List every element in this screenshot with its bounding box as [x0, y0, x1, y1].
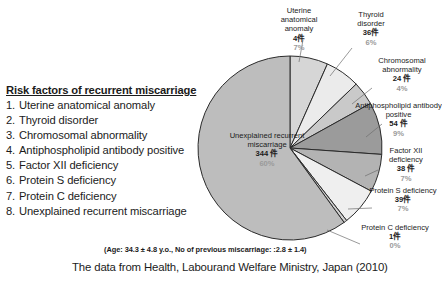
chart-figure: Risk factors of recurrent miscarriage 1.…	[0, 0, 442, 290]
slice-label-name: Protein S deficiency	[368, 186, 438, 195]
slice-label-percent: 7%	[372, 174, 440, 183]
slice-label-percent: 7%	[368, 204, 438, 213]
caption-source: The data from Health, Labourand Welfare …	[72, 261, 388, 273]
slice-label-count: 38 件	[372, 164, 440, 173]
caption-age: (Age: 34.3 ± 4.8 y.o., No of previous mi…	[104, 245, 306, 254]
slice-label-name: Uterine anatomical anomaly	[271, 6, 327, 34]
slice-label-percent: 0%	[361, 241, 429, 250]
slice-label-count: 344 件	[224, 149, 310, 158]
slice-label-antiphospholipid: Antiphospholipid antibody positive 54 件 …	[355, 101, 442, 138]
slice-label-percent: 9%	[355, 129, 442, 138]
slice-label-count: 24 件	[364, 74, 440, 83]
slice-label-count: 4件	[271, 34, 327, 43]
slice-label-factorxii: Factor XII deficiency 38 件 7%	[372, 146, 440, 183]
slice-label-unexplained: Unexplained recurrent miscarriage 344 件 …	[224, 131, 310, 168]
slice-label-name: Protein C deficiency	[361, 223, 429, 232]
slice-label-percent: 4%	[364, 84, 440, 93]
slice-label-count: 1件	[361, 232, 429, 241]
slice-label-percent: 6%	[347, 38, 395, 47]
slice-label-name: Factor XII deficiency	[372, 146, 440, 164]
slice-label-percent: 60%	[224, 159, 310, 168]
slice-label-name: Thyroid disorder	[347, 10, 395, 28]
slice-label-chromosomal: Chromosomal abnormality 24 件 4%	[364, 56, 440, 93]
slice-label-proteins: Protein S deficiency 39件 7%	[368, 186, 438, 214]
slice-label-proteinc: Protein C deficiency 1件 0%	[361, 223, 429, 251]
slice-label-name: Unexplained recurrent miscarriage	[224, 131, 310, 149]
slice-label-name: Chromosomal abnormality	[364, 56, 440, 74]
slice-label-percent: 7%	[271, 43, 327, 52]
slice-label-thyroid: Thyroid disorder 36件 6%	[347, 10, 395, 47]
slice-label-count: 39件	[368, 195, 438, 204]
slice-label-name: Antiphospholipid antibody positive	[355, 101, 442, 119]
slice-label-uterine: Uterine anatomical anomaly 4件 7%	[271, 6, 327, 52]
slice-label-count: 54 件	[355, 119, 442, 128]
slice-label-count: 36件	[347, 28, 395, 37]
leader-proteinc	[327, 230, 360, 244]
